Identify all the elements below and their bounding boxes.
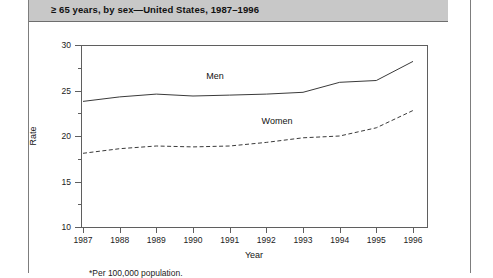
x-tick-label: 1987 <box>74 235 93 245</box>
x-tick <box>193 228 194 233</box>
chart-footnote: *Per 100,000 population. <box>89 268 183 278</box>
x-tick <box>156 228 157 233</box>
series-lines <box>81 45 428 228</box>
x-tick <box>120 228 121 233</box>
x-tick <box>83 228 84 233</box>
page-right-rule <box>470 0 471 273</box>
x-axis-title: Year <box>245 250 263 260</box>
x-tick-label: 1995 <box>367 235 386 245</box>
x-tick <box>230 228 231 233</box>
y-tick-label: 30 <box>62 40 71 50</box>
x-tick-label: 1990 <box>184 235 203 245</box>
series-label-women: Women <box>262 116 293 126</box>
x-tick-label: 1988 <box>110 235 129 245</box>
series-line-women <box>83 111 413 154</box>
chart-title: ≥ 65 years, by sex—United States, 1987–1… <box>51 4 259 15</box>
y-tick-label: 10 <box>62 222 71 232</box>
x-tick-label: 1993 <box>294 235 313 245</box>
x-tick <box>303 228 304 233</box>
x-tick <box>413 228 414 233</box>
y-axis-title: Rate <box>28 126 38 145</box>
x-tick <box>376 228 377 233</box>
title-banner: ≥ 65 years, by sex—United States, 1987–1… <box>29 0 448 22</box>
series-label-men: Men <box>206 71 224 81</box>
x-tick <box>266 228 267 233</box>
series-line-men <box>83 61 413 101</box>
x-tick-label: 1992 <box>257 235 276 245</box>
chart-figure: Rate Year 1015202530 1987198819891990199… <box>29 23 448 273</box>
x-tick-label: 1996 <box>404 235 423 245</box>
y-tick-label: 25 <box>62 86 71 96</box>
x-tick-label: 1991 <box>220 235 239 245</box>
x-tick <box>340 228 341 233</box>
x-tick-label: 1989 <box>147 235 166 245</box>
y-tick-label: 20 <box>62 131 71 141</box>
x-tick-label: 1994 <box>330 235 349 245</box>
y-tick-label: 15 <box>62 177 71 187</box>
